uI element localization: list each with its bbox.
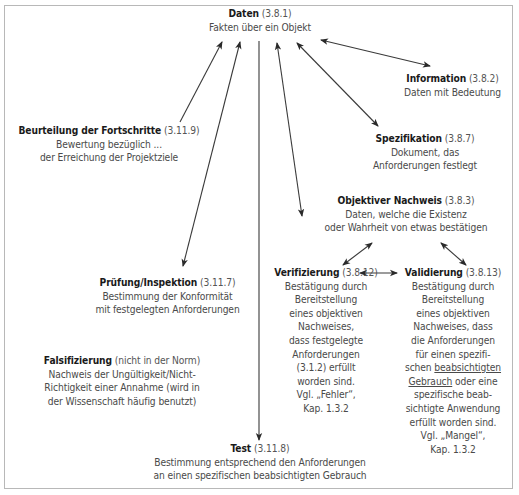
node-description: Bestätigung durch Bereitstellung eines o… [266,280,386,416]
node-description: Bewertung bezüglich ... der Erreichung d… [14,138,204,165]
node-title: Objektiver Nachweis [338,195,442,206]
node-ref: (3.8.2) [469,73,499,84]
node-title: Prüfung/Inspektion [100,277,198,288]
node-title: Falsifizierung [44,355,112,366]
description-text: Bestätigung durch Bereitstellung eines o… [405,281,495,374]
arrow-objektiver-nachweis-verifizierung [343,243,372,265]
node-test: Test (3.11.8) Bestimmung entsprechend de… [140,442,380,483]
arrow-spezifikation-daten [297,43,378,126]
node-ref: (3.8.13) [466,267,502,278]
node-information: Information (3.8.2) Daten mit Bedeutung [395,72,510,99]
node-title: Spezifikation [376,133,442,144]
node-ref: (3.11.8) [254,443,290,454]
arrow-beurteilung-daten [180,42,222,122]
node-objektiver-nachweis: Objektiver Nachweis (3.8.3) Daten, welch… [296,194,516,235]
node-ref: (3.11.9) [164,125,200,136]
node-pruefung-inspektion: Prüfung/Inspektion (3.11.7) Bestimmung d… [70,276,265,317]
node-ref: (3.8.3) [445,195,475,206]
node-title: Test [231,443,252,454]
arrow-objektiver-nachweis-validierung [441,243,466,265]
node-daten: Daten (3.8.1) Fakten über ein Objekt [180,7,340,34]
node-description: Nachweis der Ungültigkeit/Nicht- Richtig… [22,368,222,409]
node-validierung: Validierung (3.8.13) Bestätigung durch B… [394,266,512,456]
node-title: Verifizierung [274,267,339,278]
node-verifizierung: Verifizierung (3.8.12) Bestätigung durch… [266,266,386,416]
node-ref: (3.8.12) [342,267,378,278]
node-description: Bestätigung durch Bereitstellung eines o… [394,280,512,457]
node-description: Daten, welche die Existenz oder Wahrheit… [296,208,516,235]
node-title: Beurteilung der Fortschritte [18,125,161,136]
node-description: Fakten über ein Objekt [180,21,340,35]
node-falsifizierung: Falsifizierung (nicht in der Norm) Nachw… [22,354,222,408]
node-ref: (3.8.1) [262,8,292,19]
node-description: Daten mit Bedeutung [395,86,510,100]
node-description: Dokument, das Anforderungen festlegt [360,146,490,173]
node-description: Bestimmung entsprechend den Anforderunge… [140,456,380,483]
arrow-information-daten [321,40,430,66]
node-ref: (nicht in der Norm) [115,355,200,366]
node-title: Daten [229,8,259,19]
node-title: Information [406,73,466,84]
node-spezifikation: Spezifikation (3.8.7) Dokument, das Anfo… [360,132,490,173]
node-description: Bestimmung der Konformität mit festgeleg… [70,290,265,317]
arrow-objektiver-nachweis-daten [277,43,302,216]
node-title: Validierung [405,267,463,278]
node-ref: (3.11.7) [200,277,236,288]
node-ref: (3.8.7) [445,133,475,144]
node-beurteilung-der-fortschritte: Beurteilung der Fortschritte (3.11.9) Be… [14,124,204,165]
description-text: oder eine spezifische beab- sichtigte An… [406,376,501,455]
